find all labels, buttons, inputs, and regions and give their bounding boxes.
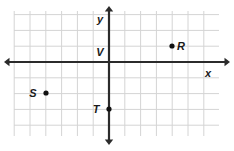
y-axis-arrow-up-icon	[105, 6, 113, 12]
coordinate-plane-figure: yxVRST	[0, 0, 234, 151]
plotted-point-r	[169, 43, 174, 48]
plotted-point-s	[43, 90, 48, 95]
coordinate-plane-svg: yxVRST	[0, 0, 234, 151]
label-y: y	[96, 13, 104, 25]
grid-lines	[14, 11, 219, 136]
axes	[4, 6, 230, 145]
label-S: S	[29, 87, 37, 99]
label-R: R	[177, 40, 185, 52]
plotted-point-t	[106, 106, 111, 111]
y-axis-arrow-down-icon	[105, 140, 113, 146]
x-axis-arrow-right-icon	[225, 58, 231, 66]
label-x: x	[204, 67, 212, 79]
label-V: V	[96, 46, 105, 58]
figure-labels: yxVRST	[29, 13, 212, 115]
x-axis-arrow-left-icon	[4, 58, 10, 66]
